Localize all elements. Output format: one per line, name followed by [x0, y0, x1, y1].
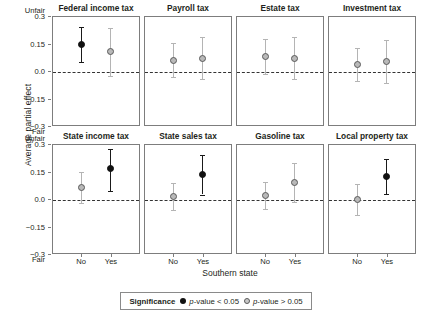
zero-reference-line [329, 200, 415, 201]
error-bar-cap-upper [292, 37, 297, 38]
x-tick-label-no: No [76, 257, 86, 266]
panel-title: Investment tax [328, 3, 416, 13]
marker-not-significant[interactable] [383, 58, 390, 65]
y-tick-mark [48, 126, 51, 127]
marker-not-significant[interactable] [107, 48, 114, 55]
error-bar-cap-lower [292, 202, 297, 203]
marker-significant[interactable] [78, 41, 85, 48]
error-bar-cap-upper [79, 172, 84, 173]
y-tick-label: 0.0 [34, 195, 45, 204]
zero-reference-line [53, 72, 139, 73]
legend-label-not-significant: p-value > 0.05 [253, 297, 303, 306]
y-axis-high-label: Unfair [25, 6, 45, 15]
error-bar-cap-upper [263, 39, 268, 40]
panel-title: State sales tax [144, 131, 232, 141]
error-bar-cap-lower [384, 194, 389, 195]
panel-state-sales-tax: State sales taxNoYes [144, 144, 232, 254]
panel-federal-income-tax: Federal income tax [52, 16, 140, 126]
legend-item-significant[interactable]: p-value < 0.05 [180, 297, 239, 306]
panel-row: 0.30.150.0−0.15−0.3UnfairFairFederal inc… [52, 16, 416, 126]
y-tick-label: 0.15 [30, 167, 45, 176]
zero-reference-line [237, 200, 323, 201]
error-bar-cap-lower [79, 62, 84, 63]
marker-significant[interactable] [107, 165, 114, 172]
panel-title: Payroll tax [144, 3, 232, 13]
error-bar-cap-upper [384, 159, 389, 160]
marker-not-significant[interactable] [262, 192, 269, 199]
panel-frame [328, 16, 416, 126]
y-axis: 0.30.150.0−0.15−0.3UnfairFair [0, 16, 52, 126]
panel-title: Local property tax [328, 131, 416, 141]
panel-local-property-tax: Local property taxNoYes [328, 144, 416, 254]
y-tick-mark [48, 44, 51, 45]
y-tick-label: −0.15 [26, 222, 45, 231]
error-bar-cap-lower [200, 79, 205, 80]
panel-grid: 0.30.150.0−0.15−0.3UnfairFairFederal inc… [52, 16, 416, 254]
error-bar-cap-upper [355, 48, 360, 49]
tax-fairness-panel-chart: Average partial effect 0.30.150.0−0.15−0… [0, 0, 421, 323]
error-bar-cap-lower [108, 191, 113, 192]
panel-title: Federal income tax [52, 3, 140, 13]
marker-not-significant[interactable] [78, 184, 85, 191]
error-bar-cap-lower [263, 74, 268, 75]
legend-item-not-significant[interactable]: p-value > 0.05 [244, 297, 303, 306]
error-bar-cap-lower [171, 210, 176, 211]
panel-frame [328, 144, 416, 254]
y-tick-mark [48, 99, 51, 100]
panel-gasoline-tax: Gasoline taxNoYes [236, 144, 324, 254]
y-tick-label: −0.15 [26, 94, 45, 103]
error-bar-cap-upper [171, 183, 176, 184]
panel-frame [52, 144, 140, 254]
x-tick-label-no: No [352, 257, 362, 266]
error-bar-cap-upper [108, 28, 113, 29]
error-bar-cap-upper [355, 184, 360, 185]
y-tick-mark [48, 199, 51, 200]
error-bar-cap-upper [171, 43, 176, 44]
error-bar-cap-lower [171, 77, 176, 78]
y-axis-low-label: Fair [32, 255, 45, 264]
legend-title: Significance [129, 297, 175, 306]
panel-state-income-tax: State income taxNoYes [52, 144, 140, 254]
y-tick-mark [48, 144, 51, 145]
marker-not-significant[interactable] [354, 61, 361, 68]
panel-frame [52, 16, 140, 126]
x-tick-label-no: No [168, 257, 178, 266]
y-tick-mark [48, 227, 51, 228]
marker-not-significant[interactable] [291, 55, 298, 62]
marker-not-significant[interactable] [170, 193, 177, 200]
filled-circle-icon [180, 298, 186, 304]
y-tick-mark [48, 71, 51, 72]
marker-significant[interactable] [199, 171, 206, 178]
marker-significant[interactable] [383, 173, 390, 180]
marker-not-significant[interactable] [291, 179, 298, 186]
marker-not-significant[interactable] [170, 57, 177, 64]
x-tick-label-yes: Yes [105, 257, 117, 266]
legend-label-significant: p-value < 0.05 [189, 297, 239, 306]
error-bar-cap-upper [79, 27, 84, 28]
error-bar-cap-upper [292, 163, 297, 164]
error-bar-cap-lower [355, 81, 360, 82]
y-axis-high-label: Unfair [25, 134, 45, 143]
error-bar-cap-lower [79, 203, 84, 204]
y-tick-mark [48, 254, 51, 255]
y-tick-mark [48, 172, 51, 173]
error-bar-cap-upper [108, 149, 113, 150]
marker-not-significant[interactable] [354, 196, 361, 203]
error-bar-cap-upper [263, 182, 268, 183]
y-tick-label: 0.15 [30, 39, 45, 48]
error-bar-cap-lower [200, 195, 205, 196]
error-bar-cap-upper [200, 155, 205, 156]
x-tick-label-yes: Yes [197, 257, 209, 266]
x-axis-title: Southern state [40, 268, 420, 278]
panel-frame [144, 16, 232, 126]
x-tick-label-no: No [260, 257, 270, 266]
marker-not-significant[interactable] [199, 55, 206, 62]
open-circle-icon [244, 298, 250, 304]
zero-reference-line [237, 72, 323, 73]
panel-frame [236, 144, 324, 254]
panel-payroll-tax: Payroll tax [144, 16, 232, 126]
x-tick-label-yes: Yes [289, 257, 301, 266]
marker-not-significant[interactable] [262, 53, 269, 60]
error-bar-cap-lower [355, 215, 360, 216]
panel-estate-tax: Estate tax [236, 16, 324, 126]
